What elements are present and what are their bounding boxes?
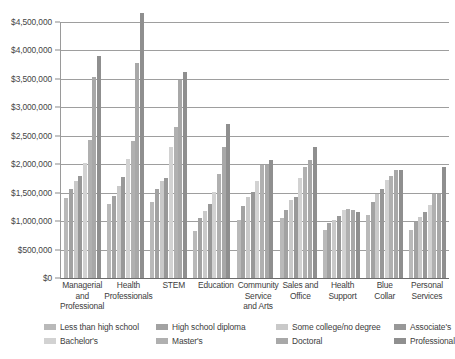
bar bbox=[442, 167, 446, 279]
x-axis-label-line: Services bbox=[406, 291, 448, 302]
bar bbox=[78, 176, 82, 278]
bar bbox=[92, 77, 96, 278]
legend-label: Some college/no degree bbox=[292, 322, 381, 332]
x-axis-label-line: Education bbox=[195, 280, 237, 291]
bar bbox=[88, 140, 92, 278]
bar bbox=[394, 170, 398, 278]
bar bbox=[260, 165, 264, 278]
bar bbox=[399, 170, 403, 278]
bar bbox=[385, 180, 389, 278]
x-axis-label-line: Community bbox=[237, 280, 279, 291]
plot-area bbox=[60, 22, 449, 279]
bar-groups bbox=[61, 22, 449, 278]
legend-item[interactable]: Bachelor's bbox=[44, 336, 98, 346]
x-axis-label-line: Managerial bbox=[60, 280, 104, 291]
y-axis: $0$500,000$1,000,000$1,500,000$2,000,000… bbox=[0, 0, 56, 300]
bar bbox=[222, 147, 226, 278]
bar bbox=[117, 186, 121, 278]
bar bbox=[437, 194, 441, 278]
bar-group bbox=[363, 22, 406, 278]
bar bbox=[64, 198, 68, 278]
y-axis-tick-label: $3,500,000 bbox=[11, 74, 52, 84]
bar-group bbox=[61, 22, 104, 278]
bar bbox=[323, 230, 327, 278]
legend-label: Bachelor's bbox=[60, 336, 98, 346]
bar bbox=[131, 141, 135, 278]
legend-item[interactable]: Master's bbox=[156, 336, 203, 346]
legend-label: Associate's bbox=[410, 322, 451, 332]
y-axis-tick-label: $2,500,000 bbox=[11, 131, 52, 141]
x-axis-label-line: Office bbox=[279, 291, 321, 302]
bar bbox=[255, 181, 259, 278]
x-axis-label-line: Health bbox=[321, 280, 363, 291]
bar bbox=[69, 189, 73, 278]
bar bbox=[342, 210, 346, 278]
bar bbox=[164, 178, 168, 278]
x-axis-label-line: Sales and bbox=[279, 280, 321, 291]
legend-row: Less than high schoolHigh school diploma… bbox=[44, 321, 444, 333]
bar bbox=[265, 165, 269, 278]
bar bbox=[178, 80, 182, 278]
bar bbox=[150, 202, 154, 278]
plot-wrapper: $0$500,000$1,000,000$1,500,000$2,000,000… bbox=[0, 0, 455, 300]
bar bbox=[97, 56, 101, 278]
bar bbox=[183, 72, 187, 279]
legend-swatch-icon bbox=[44, 338, 56, 344]
bar bbox=[409, 230, 413, 278]
bar bbox=[203, 211, 207, 278]
legend-item[interactable]: High school diploma bbox=[156, 322, 246, 332]
bar bbox=[74, 181, 78, 278]
bar bbox=[303, 167, 307, 278]
bar bbox=[107, 204, 111, 278]
x-axis-category-label: ManagerialandProfessional bbox=[60, 280, 104, 312]
bar bbox=[140, 13, 144, 278]
bar bbox=[280, 218, 284, 278]
bar bbox=[284, 210, 288, 278]
bar bbox=[121, 177, 125, 278]
bar bbox=[423, 212, 427, 278]
bar bbox=[198, 218, 202, 278]
legend-item[interactable]: Some college/no degree bbox=[276, 322, 381, 332]
legend-label: Professional bbox=[410, 336, 455, 346]
y-axis-tick-label: $500,000 bbox=[18, 245, 52, 255]
bar bbox=[126, 159, 130, 278]
bar bbox=[356, 212, 360, 278]
legend-label: Doctoral bbox=[292, 336, 322, 346]
bar bbox=[237, 220, 241, 278]
bar bbox=[298, 178, 302, 278]
bar bbox=[289, 200, 293, 278]
legend-swatch-icon bbox=[276, 338, 288, 344]
x-axis-label-line: Service bbox=[237, 291, 279, 302]
x-axis-label-line: Collar bbox=[364, 291, 406, 302]
x-axis-category-label: PersonalServices bbox=[406, 280, 448, 312]
legend-item[interactable]: Less than high school bbox=[44, 322, 139, 332]
legend-label: Master's bbox=[172, 336, 203, 346]
legend-item[interactable]: Doctoral bbox=[276, 336, 322, 346]
legend-item[interactable]: Professional bbox=[394, 336, 455, 346]
x-axis-category-label: STEM bbox=[153, 280, 195, 312]
bar bbox=[375, 194, 379, 278]
legend-item[interactable]: Associate's bbox=[394, 322, 451, 332]
x-axis-labels: ManagerialandProfessionalHealthProfessio… bbox=[60, 280, 448, 312]
legend-swatch-icon bbox=[156, 338, 168, 344]
bar-group bbox=[320, 22, 363, 278]
y-axis-tick-label: $4,500,000 bbox=[11, 17, 52, 27]
bar bbox=[414, 222, 418, 278]
x-axis-label-line: and bbox=[60, 291, 104, 302]
legend-label: High school diploma bbox=[172, 322, 246, 332]
bar bbox=[346, 209, 350, 278]
bar bbox=[83, 163, 87, 278]
y-axis-tick-label: $1,000,000 bbox=[11, 216, 52, 226]
x-axis-label-line: Professional bbox=[60, 301, 104, 312]
x-axis-label-line: Professionals bbox=[104, 291, 152, 302]
bar bbox=[241, 206, 245, 278]
bar bbox=[351, 210, 355, 278]
y-axis-tick-label: $3,000,000 bbox=[11, 102, 52, 112]
bar bbox=[135, 63, 139, 278]
legend-label: Less than high school bbox=[60, 322, 139, 332]
legend-row: Bachelor'sMaster'sDoctoralProfessional bbox=[44, 335, 444, 347]
bar bbox=[226, 124, 230, 278]
legend-swatch-icon bbox=[394, 324, 406, 330]
legend-swatch-icon bbox=[394, 338, 406, 344]
x-axis-category-label: CommunityServiceand Arts bbox=[237, 280, 279, 312]
